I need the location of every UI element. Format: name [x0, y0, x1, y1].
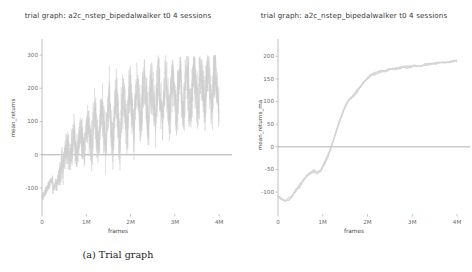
y-tick-label: 300: [8, 52, 38, 58]
x-tick-label: 1M: [72, 219, 100, 225]
x-tick-label: 0: [264, 219, 292, 225]
plot-area-b: mean_returns_ma frames -100-500501001502…: [236, 0, 472, 236]
x-tick-label: 0: [28, 219, 56, 225]
y-tick-label: 100: [8, 118, 38, 124]
x-tick-label: 1M: [309, 219, 337, 225]
caption-a: (a) Trial graph: [0, 249, 236, 260]
x-tick-label: 2M: [354, 219, 382, 225]
x-axis-label-b: frames: [236, 228, 472, 234]
y-tick-label: 200: [8, 85, 38, 91]
x-tick-label: 2M: [117, 219, 145, 225]
data-line: [278, 60, 457, 201]
y-tick-label: 50: [244, 121, 274, 127]
x-tick-label: 3M: [161, 219, 189, 225]
figure-container: trial graph: a2c_nstep_bipedalwalker t0 …: [0, 0, 472, 272]
plot-area-a: mean_returns frames -100010020030001M2M3…: [0, 0, 236, 236]
y-tick-label: 0: [244, 144, 274, 150]
y-tick-label: 0: [8, 152, 38, 158]
x-tick-label: 3M: [398, 219, 426, 225]
y-tick-label: -100: [244, 189, 274, 195]
y-tick-label: 150: [244, 76, 274, 82]
x-axis-label-a: frames: [0, 228, 236, 234]
moving-average-plot: [236, 0, 472, 236]
y-tick-label: -50: [244, 166, 274, 172]
y-tick-label: 100: [244, 98, 274, 104]
x-tick-label: 4M: [205, 219, 233, 225]
data-line: [278, 60, 457, 202]
panel-trial-graph: trial graph: a2c_nstep_bipedalwalker t0 …: [0, 0, 236, 272]
x-tick-label: 4M: [443, 219, 471, 225]
y-tick-label: 200: [244, 53, 274, 59]
y-tick-label: -100: [8, 185, 38, 191]
panel-trial-graph-moving-average: trial graph: a2c_nstep_bipedalwalker t0 …: [236, 0, 472, 272]
